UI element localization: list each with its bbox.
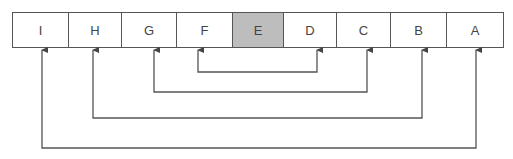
link-h-b-arrow: [93, 50, 422, 118]
swap-links: [0, 0, 513, 159]
link-g-c-arrow: [154, 50, 367, 92]
link-i-a-arrow: [42, 50, 476, 148]
link-f-d-arrow: [198, 50, 317, 72]
